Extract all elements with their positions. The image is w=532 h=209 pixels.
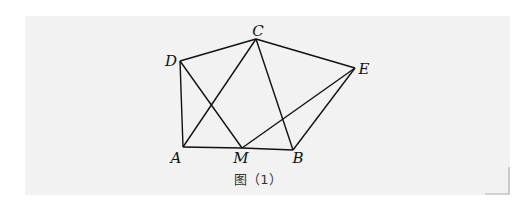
segment-AM <box>183 147 242 148</box>
point-label-B: B <box>291 149 303 167</box>
point-labels: AMBCDE <box>164 22 370 167</box>
figure-caption: 图（1） <box>234 172 281 187</box>
segment-DC <box>180 39 256 61</box>
segment-BE <box>293 68 355 150</box>
segment-ME <box>242 68 355 148</box>
segments <box>180 39 355 150</box>
corner-bracket <box>485 167 509 194</box>
point-label-E: E <box>358 60 370 78</box>
point-label-A: A <box>169 149 182 167</box>
segment-DA <box>180 61 183 147</box>
segment-CE <box>256 39 355 68</box>
segment-MB <box>242 148 293 150</box>
segment-AC <box>183 39 256 147</box>
point-label-D: D <box>164 52 177 70</box>
geometry-diagram: AMBCDE 图（1） <box>0 0 532 209</box>
point-label-C: C <box>252 22 264 40</box>
point-label-M: M <box>232 149 249 167</box>
